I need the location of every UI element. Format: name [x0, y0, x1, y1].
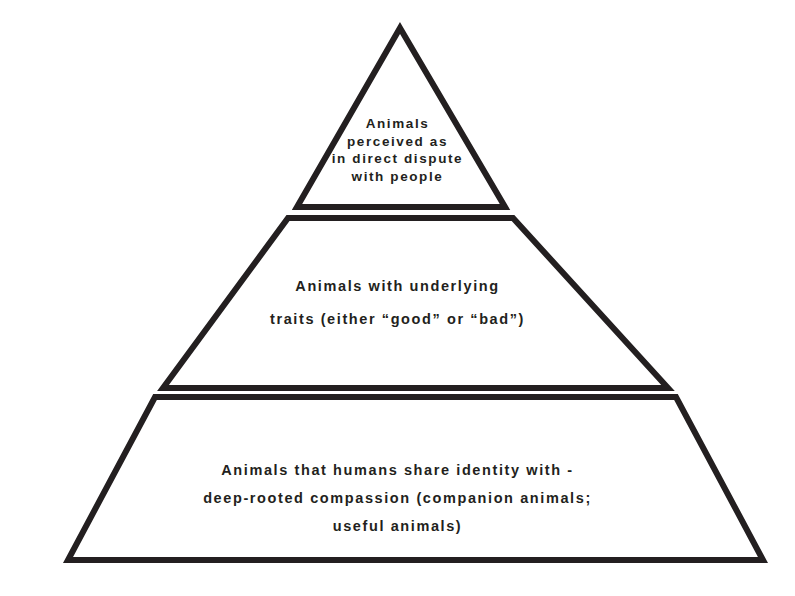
tier-3-label-line-3: useful animals) [0, 512, 795, 540]
tier-2-label-line-2: traits (either “good” or “bad”) [0, 303, 795, 336]
tier-1-label-line-4: with people [0, 168, 795, 186]
tier-3-label-line-1: Animals that humans share identity with … [0, 456, 795, 484]
pyramid-diagram: Animals perceived as in direct dispute w… [0, 0, 795, 596]
tier-1-label-line-2: perceived as [0, 133, 795, 151]
tier-2-label-line-1: Animals with underlying [0, 270, 795, 303]
pyramid-tier-3-label: Animals that humans share identity with … [0, 456, 795, 540]
tier-1-label-line-3: in direct dispute [0, 150, 795, 168]
pyramid-tier-1-label: Animals perceived as in direct dispute w… [0, 115, 795, 185]
pyramid-tier-2-label: Animals with underlying traits (either “… [0, 270, 795, 336]
tier-1-label-line-1: Animals [0, 115, 795, 133]
tier-3-label-line-2: deep-rooted compassion (companion animal… [0, 484, 795, 512]
